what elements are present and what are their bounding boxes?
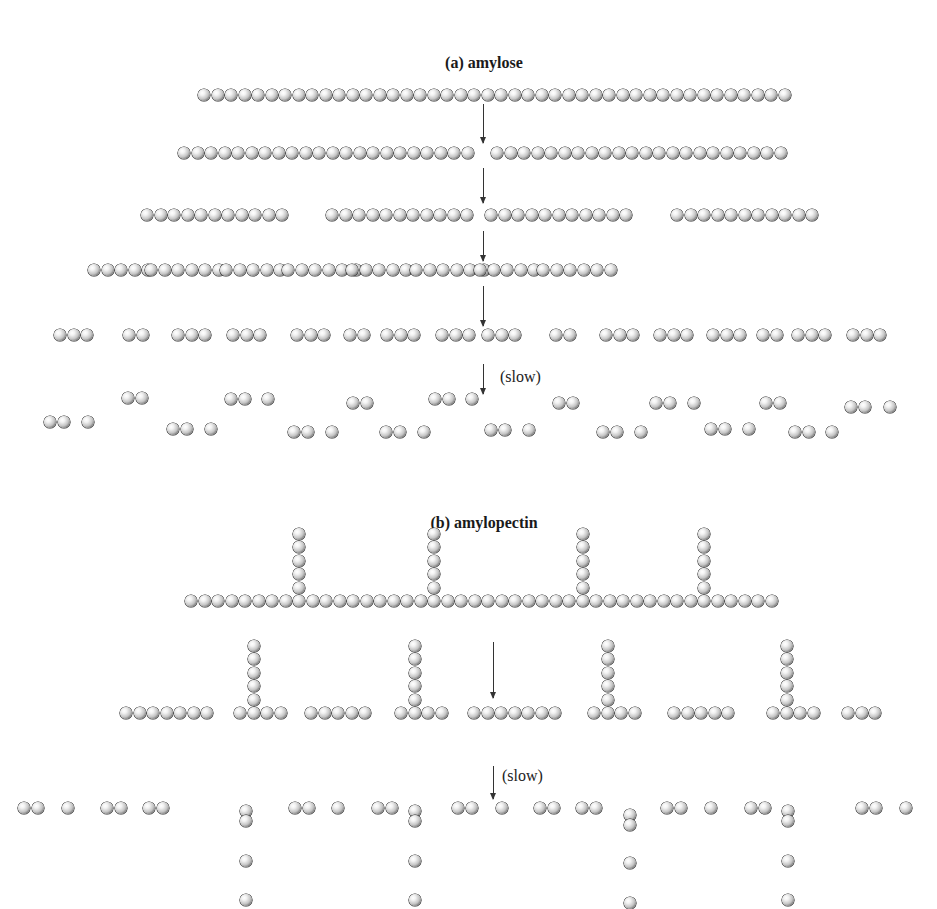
glucose-unit-icon [394, 426, 406, 438]
glucose-unit-icon [418, 426, 430, 438]
glucose-unit-icon [745, 802, 757, 814]
glucose-unit-icon [550, 595, 562, 607]
glucose-unit-icon [129, 264, 141, 276]
glucose-unit-icon [161, 707, 173, 719]
glucose-unit-icon [372, 802, 384, 814]
glucose-unit-icon [588, 707, 600, 719]
glucose-unit-icon [721, 147, 733, 159]
glucose-unit-icon [273, 147, 285, 159]
glucose-unit-icon [407, 209, 419, 221]
glucose-unit-icon [694, 147, 706, 159]
glucose-unit-icon [346, 707, 358, 719]
glucose-unit-icon [550, 329, 562, 341]
glucose-unit-icon [698, 541, 710, 553]
glucose-unit-icon [201, 707, 213, 719]
glucose-unit-icon [145, 264, 157, 276]
glucose-unit-icon [115, 264, 127, 276]
glucose-unit-icon [522, 89, 534, 101]
glucose-unit-icon [653, 147, 665, 159]
glucose-unit-icon [681, 329, 693, 341]
glucose-unit-icon [775, 147, 787, 159]
glucose-unit-icon [725, 595, 737, 607]
glucose-unit-icon [466, 393, 478, 405]
glucose-unit-icon [441, 89, 453, 101]
glucose-unit-icon [289, 802, 301, 814]
glucose-unit-icon [462, 147, 474, 159]
glucose-unit-icon [495, 707, 507, 719]
glucose-unit-icon [688, 397, 700, 409]
glucose-unit-icon [421, 147, 433, 159]
glucose-unit-icon [667, 147, 679, 159]
glucose-unit-icon [240, 815, 252, 827]
glucose-unit-icon [381, 147, 393, 159]
amylose-title: (a) amylose [445, 54, 523, 72]
glucose-unit-icon [644, 595, 656, 607]
glucose-unit-icon [115, 802, 127, 814]
glucose-unit-icon [808, 707, 820, 719]
glucose-unit-icon [437, 264, 449, 276]
glucose-unit-icon [792, 329, 804, 341]
glucose-unit-icon [44, 416, 56, 428]
glucose-unit-icon [661, 802, 673, 814]
glucose-unit-icon [617, 595, 629, 607]
glucose-unit-icon [781, 707, 793, 719]
glucose-unit-icon [819, 329, 831, 341]
glucose-unit-icon [577, 555, 589, 567]
glucose-unit-icon [624, 897, 636, 909]
glucose-unit-icon [611, 426, 623, 438]
glucose-unit-icon [707, 329, 719, 341]
glucose-unit-icon [766, 209, 778, 221]
glucose-unit-icon [501, 264, 513, 276]
glucose-unit-icon [380, 209, 392, 221]
glucose-unit-icon [781, 640, 793, 652]
glucose-unit-icon [536, 89, 548, 101]
glucose-unit-icon [590, 802, 602, 814]
glucose-unit-icon [738, 89, 750, 101]
glucose-unit-icon [354, 147, 366, 159]
glucose-unit-icon [266, 89, 278, 101]
glucose-unit-icon [246, 147, 258, 159]
glucose-unit-icon [748, 147, 760, 159]
glucose-unit-icon [522, 707, 534, 719]
glucose-unit-icon [577, 582, 589, 594]
glucose-unit-icon [332, 802, 344, 814]
glucose-unit-icon [143, 802, 155, 814]
glucose-unit-icon [155, 209, 167, 221]
glucose-unit-icon [505, 147, 517, 159]
glucose-unit-icon [293, 568, 305, 580]
glucose-unit-icon [499, 424, 511, 436]
glucose-unit-icon [239, 89, 251, 101]
glucose-unit-icon [263, 209, 275, 221]
glucose-unit-icon [225, 89, 237, 101]
glucose-unit-icon [428, 568, 440, 580]
glucose-unit-icon [767, 707, 779, 719]
glucose-unit-icon [671, 209, 683, 221]
glucose-unit-icon [226, 595, 238, 607]
glucose-unit-icon [526, 209, 538, 221]
glucose-unit-icon [705, 802, 717, 814]
reaction-arrow [483, 168, 484, 203]
glucose-unit-icon [186, 264, 198, 276]
glucose-unit-icon [262, 393, 274, 405]
glucose-unit-icon [318, 329, 330, 341]
glucose-unit-icon [387, 264, 399, 276]
glucose-unit-icon [409, 680, 421, 692]
glucose-unit-icon [495, 89, 507, 101]
glucose-unit-icon [614, 329, 626, 341]
glucose-unit-icon [685, 209, 697, 221]
glucose-unit-icon [671, 89, 683, 101]
glucose-unit-icon [192, 147, 204, 159]
glucose-unit-icon [635, 426, 647, 438]
glucose-unit-icon [408, 147, 420, 159]
glucose-unit-icon [225, 393, 237, 405]
glucose-unit-icon [302, 426, 314, 438]
glucose-unit-icon [518, 147, 530, 159]
glucose-unit-icon [443, 393, 455, 405]
glucose-unit-icon [752, 89, 764, 101]
glucose-unit-icon [240, 855, 252, 867]
glucose-unit-icon [435, 147, 447, 159]
glucose-unit-icon [448, 209, 460, 221]
glucose-unit-icon [386, 802, 398, 814]
glucose-unit-icon [685, 595, 697, 607]
